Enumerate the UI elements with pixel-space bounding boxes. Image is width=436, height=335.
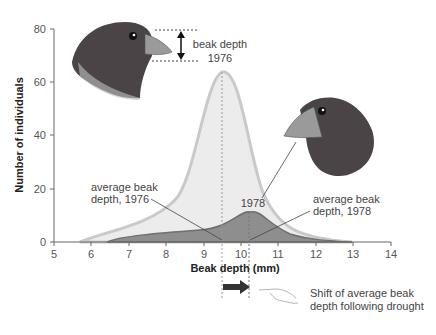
x-tick-10: 10 xyxy=(235,248,247,260)
shift-label-2: depth following drought xyxy=(310,300,424,312)
beak-depth-label: beak depth xyxy=(193,38,247,50)
double-arrow-icon xyxy=(177,31,185,60)
avg-1978-label-2: depth, 1978 xyxy=(313,205,371,217)
pointing-hand-icon xyxy=(259,289,298,303)
shift-arrow-icon xyxy=(223,280,250,294)
avg-1976-label-2: depth, 1976 xyxy=(91,193,149,205)
x-tick-5: 5 xyxy=(51,248,57,260)
x-tick-8: 8 xyxy=(163,248,169,260)
x-tick-9: 9 xyxy=(201,248,207,260)
y-tick-20: 20 xyxy=(34,183,46,195)
avg-1978-label-1: average beak xyxy=(313,193,380,205)
x-tick-7: 7 xyxy=(126,248,132,260)
x-tick-14: 14 xyxy=(385,248,397,260)
x-tick-11: 11 xyxy=(272,248,283,260)
avg-1976-label-1: average beak xyxy=(91,181,158,193)
y-tick-80: 80 xyxy=(34,23,46,35)
peak-1978-label: 1978 xyxy=(241,197,265,209)
x-tick-12: 12 xyxy=(310,248,322,260)
finch-1978-icon xyxy=(284,98,374,177)
x-tick-13: 13 xyxy=(347,248,359,260)
y-tick-40: 40 xyxy=(34,129,46,141)
beak-depth-year: 1976 xyxy=(208,52,232,64)
shift-label-1: Shift of average beak xyxy=(310,287,414,299)
y-axis-title: Number of individuals xyxy=(13,77,25,193)
y-tick-0: 0 xyxy=(40,236,46,248)
x-axis-title: Beak depth (mm) xyxy=(190,262,280,274)
y-tick-60: 60 xyxy=(34,76,46,88)
chart: 80 60 40 20 0 5 6 7 8 9 10 11 12 13 14 B… xyxy=(0,0,436,335)
x-tick-6: 6 xyxy=(88,248,94,260)
